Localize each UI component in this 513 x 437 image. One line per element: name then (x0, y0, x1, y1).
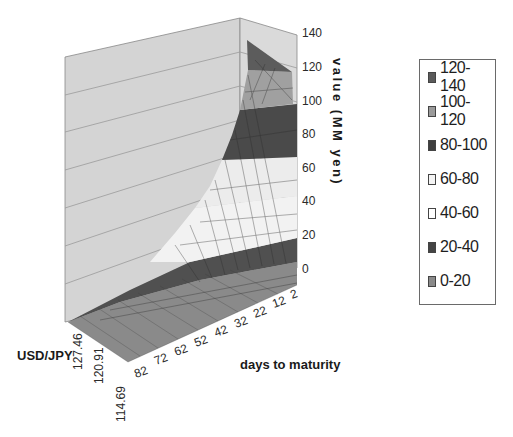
legend-item: 40-60 (428, 203, 478, 223)
legend-swatch (428, 242, 436, 253)
x-tick: 62 (172, 341, 190, 359)
legend-swatch (428, 72, 436, 83)
legend-swatch (428, 106, 436, 117)
z-tick: 20 (302, 228, 316, 242)
legend-item: 20-40 (428, 237, 478, 257)
legend-item: 100-120 (428, 101, 495, 121)
z-axis-title: value (MM yen) (330, 58, 345, 186)
legend-swatch (428, 208, 436, 219)
legend: 120-140 100-120 80-100 60-80 40-60 20-40… (419, 59, 496, 305)
legend-label: 0-20 (440, 272, 470, 290)
x-axis-title: days to maturity (240, 357, 341, 372)
y-tick: 127.46 (71, 333, 85, 370)
legend-label: 20-40 (440, 238, 478, 256)
z-tick: 80 (302, 127, 316, 141)
legend-label: 80-100 (440, 136, 487, 154)
x-tick: 32 (232, 313, 250, 331)
z-tick: 140 (302, 26, 322, 40)
x-tick: 12 (270, 293, 288, 311)
legend-swatch (428, 174, 436, 185)
z-axis: 140 120 100 80 60 40 20 0 (302, 26, 322, 276)
legend-label: 60-80 (440, 170, 478, 188)
legend-item: 60-80 (428, 169, 478, 189)
z-tick: 100 (302, 94, 322, 108)
x-tick: 82 (132, 363, 150, 381)
x-tick: 2 (288, 286, 299, 302)
z-tick: 40 (302, 194, 316, 208)
z-tick: 0 (302, 262, 309, 276)
legend-swatch (428, 276, 436, 287)
x-tick: 52 (192, 332, 210, 350)
legend-item: 120-140 (428, 67, 495, 87)
x-tick: 22 (251, 303, 269, 321)
legend-swatch (428, 140, 436, 151)
legend-item: 80-100 (428, 135, 487, 155)
legend-label: 120-140 (440, 59, 495, 95)
legend-label: 100-120 (440, 93, 495, 129)
z-tick: 120 (302, 60, 322, 74)
legend-item: 0-20 (428, 271, 470, 291)
x-tick: 42 (212, 322, 230, 340)
legend-label: 40-60 (440, 204, 478, 222)
z-tick: 60 (302, 161, 316, 175)
y-axis-title: USD/JPY (17, 348, 73, 363)
y-tick: 114.69 (114, 386, 128, 422)
x-tick: 72 (152, 350, 170, 368)
y-tick: 120.91 (92, 347, 106, 384)
